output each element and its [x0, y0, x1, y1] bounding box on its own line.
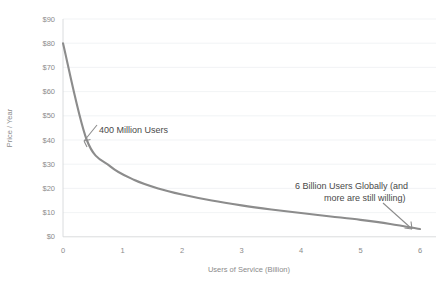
annotation-label-6-billion-line2: more are still willing) — [324, 193, 406, 203]
x-axis-title: Users of Service (Billion) — [208, 265, 291, 274]
x-tick-label-4: 4 — [299, 246, 303, 255]
y-tick-label-40: $40 — [42, 136, 55, 145]
x-tick-label-0: 0 — [61, 246, 65, 255]
y-axis-title: Price / Year — [5, 108, 14, 147]
x-tick-label-3: 3 — [239, 246, 243, 255]
y-tick-label-70: $70 — [42, 63, 55, 72]
annotation-label-400-million: 400 Million Users — [99, 125, 169, 135]
y-tick-label-50: $50 — [42, 111, 55, 120]
x-tick-label-1: 1 — [120, 246, 124, 255]
y-tick-label-80: $80 — [42, 39, 55, 48]
annotation-400-million: 400 Million Users — [84, 125, 169, 147]
y-tick-label-20: $20 — [42, 184, 55, 193]
x-tick-labels: 0 1 2 3 4 5 6 — [61, 246, 422, 255]
annotation-6-billion: 6 Billion Users Globally (and more are s… — [295, 181, 412, 229]
y-tick-label-0: $0 — [47, 232, 55, 241]
y-tick-label-10: $10 — [42, 208, 55, 217]
y-tick-label-60: $60 — [42, 87, 55, 96]
y-tick-label-30: $30 — [42, 160, 55, 169]
x-tick-label-6: 6 — [418, 246, 422, 255]
annotation-label-6-billion-line1: 6 Billion Users Globally (and — [295, 181, 408, 191]
x-tick-label-2: 2 — [180, 246, 184, 255]
leader-line-400-million — [84, 125, 97, 141]
y-tick-label-90: $90 — [42, 15, 55, 24]
price-vs-users-chart: $90 $80 $70 $60 $50 $40 $30 $20 $10 $0 0… — [0, 0, 442, 286]
chart-canvas: $90 $80 $70 $60 $50 $40 $30 $20 $10 $0 0… — [0, 0, 442, 286]
y-tick-labels: $90 $80 $70 $60 $50 $40 $30 $20 $10 $0 — [42, 15, 55, 242]
x-tick-label-5: 5 — [358, 246, 362, 255]
